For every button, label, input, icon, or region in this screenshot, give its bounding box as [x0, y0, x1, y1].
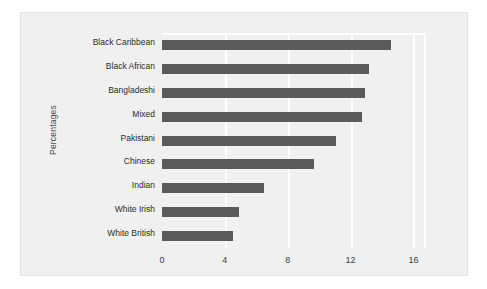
x-tick-label: 0 — [159, 255, 164, 265]
bar-row: White British — [162, 224, 426, 248]
bar-row: White Irish — [162, 200, 426, 224]
category-label: White British — [107, 228, 155, 238]
category-label: White Irish — [115, 204, 155, 214]
bar — [162, 88, 365, 98]
category-label: Indian — [132, 180, 155, 190]
chart-panel: Percentages Black CaribbeanBlack African… — [20, 12, 468, 276]
plot-area: Black CaribbeanBlack AfricanBangladeshiM… — [162, 33, 426, 248]
bar — [162, 207, 239, 217]
bar — [162, 112, 362, 122]
bar-row: Pakistani — [162, 129, 426, 153]
category-label: Chinese — [124, 156, 155, 166]
category-label: Black Caribbean — [93, 37, 155, 47]
bar-row: Indian — [162, 176, 426, 200]
bar-row: Black African — [162, 57, 426, 81]
category-label: Pakistani — [121, 133, 156, 143]
bar-row: Chinese — [162, 152, 426, 176]
bar-row: Black Caribbean — [162, 33, 426, 57]
category-label: Bangladeshi — [108, 85, 155, 95]
bar-row: Mixed — [162, 105, 426, 129]
x-tick-label: 8 — [285, 255, 290, 265]
bar-row: Bangladeshi — [162, 81, 426, 105]
bar — [162, 40, 391, 50]
x-tick-label: 16 — [408, 255, 418, 265]
bar — [162, 136, 336, 146]
y-axis-title: Percentages — [48, 75, 58, 185]
bar — [162, 64, 369, 74]
category-label: Black African — [106, 61, 155, 71]
x-tick-label: 4 — [222, 255, 227, 265]
chart-figure: Percentages Black CaribbeanBlack African… — [0, 0, 487, 289]
bar — [162, 183, 264, 193]
bar — [162, 231, 233, 241]
x-tick-label: 12 — [346, 255, 356, 265]
category-label: Mixed — [132, 109, 155, 119]
bar — [162, 159, 314, 169]
bar-series: Black CaribbeanBlack AfricanBangladeshiM… — [162, 33, 426, 248]
